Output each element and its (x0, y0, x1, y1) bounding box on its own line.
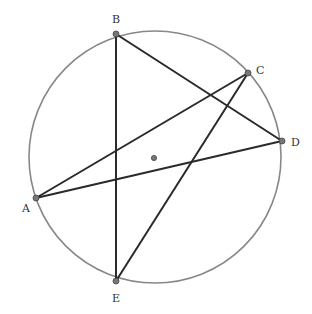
diagram-canvas: ABCDE (0, 0, 312, 314)
point-d (279, 138, 285, 144)
segment-ca (36, 73, 248, 198)
center-point (151, 155, 156, 160)
point-label-b: B (112, 13, 120, 26)
point-label-c: C (256, 64, 264, 77)
segment-bd (116, 34, 282, 141)
segment-ad (36, 141, 282, 198)
point-label-a: A (21, 202, 31, 215)
labels-group: ABCDE (21, 13, 300, 305)
point-label-e: E (112, 292, 120, 305)
point-c (245, 70, 251, 76)
point-label-d: D (291, 136, 300, 149)
point-b (113, 31, 119, 37)
point-e (113, 278, 119, 284)
point-a (33, 195, 39, 201)
segment-ec (116, 73, 248, 281)
points-group (33, 31, 285, 284)
